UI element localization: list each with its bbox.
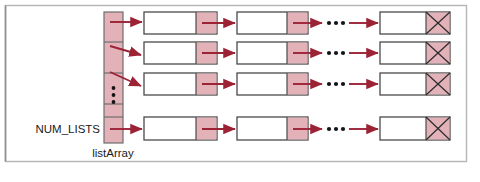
horizontal-ellipsis — [327, 51, 345, 55]
ellipsis-dot — [327, 82, 331, 86]
array-of-linked-lists-diagram: NUM_LISTS listArray — [0, 0, 480, 182]
linked-list-row — [144, 117, 450, 140]
list-array-label: listArray — [92, 147, 134, 159]
ellipsis-dot — [341, 21, 345, 25]
ellipsis-dot — [334, 51, 338, 55]
linked-list-row — [144, 73, 450, 95]
ellipsis-dot — [327, 21, 331, 25]
list-node-terminal — [380, 12, 450, 34]
ellipsis-dot — [341, 82, 345, 86]
diagram-canvas: NUM_LISTS listArray — [0, 0, 480, 182]
array-vertical-ellipsis — [112, 86, 116, 104]
horizontal-ellipsis — [327, 127, 345, 131]
ellipsis-dot — [112, 86, 116, 90]
ellipsis-dot — [327, 51, 331, 55]
ellipsis-dot — [327, 127, 331, 131]
linked-list-row — [144, 12, 450, 34]
ellipsis-dot — [334, 21, 338, 25]
ellipsis-dot — [334, 82, 338, 86]
ellipsis-dot — [334, 127, 338, 131]
horizontal-ellipsis — [327, 82, 345, 86]
linked-list-row — [144, 42, 450, 64]
ellipsis-dot — [112, 93, 116, 97]
ellipsis-dot — [112, 100, 116, 104]
horizontal-ellipsis — [327, 21, 345, 25]
list-node-terminal — [380, 73, 450, 95]
ellipsis-dot — [341, 127, 345, 131]
list-node-terminal — [380, 42, 450, 64]
list-node-terminal — [380, 117, 450, 140]
num-lists-label: NUM_LISTS — [35, 123, 100, 135]
ellipsis-dot — [341, 51, 345, 55]
